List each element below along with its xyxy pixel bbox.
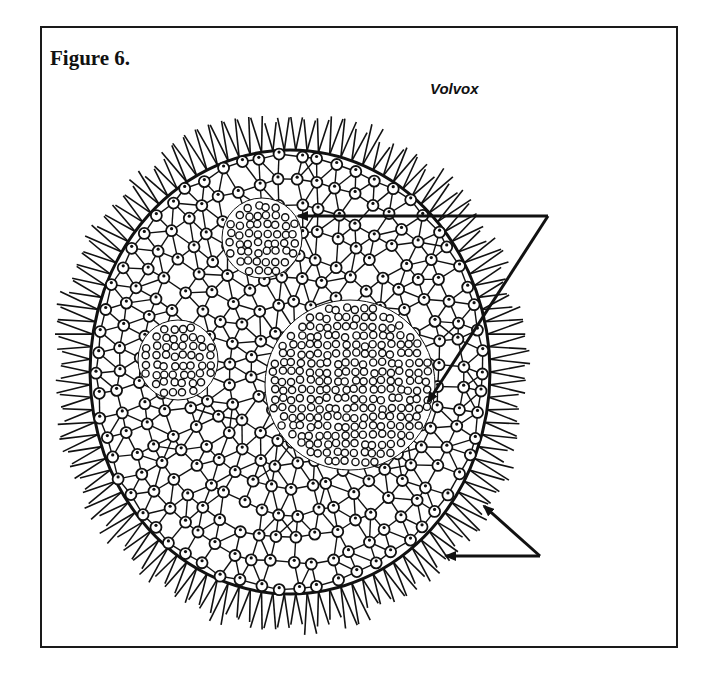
daughter-colony-large <box>265 300 435 470</box>
volvox-diagram <box>0 0 715 685</box>
daughter-colony-upper <box>222 198 302 278</box>
arrow-to-flagella-upper <box>484 506 540 556</box>
daughter-colony-left <box>138 320 218 400</box>
